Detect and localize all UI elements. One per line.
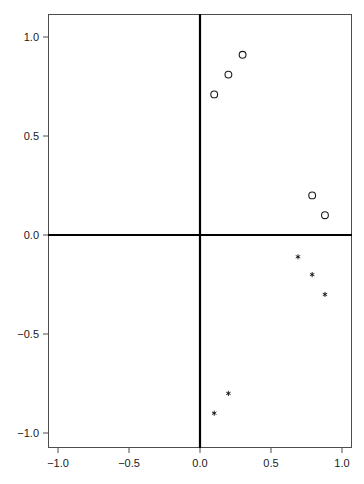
x-tick-label-4: 1.0 (334, 457, 349, 469)
y-tick-label-1: −0.5 (17, 328, 39, 340)
plot-canvas: −1.0−0.50.00.51.0 −1.0−0.50.00.51.0 (0, 0, 364, 484)
star-core (213, 412, 215, 414)
star-core (297, 256, 299, 258)
x-tick-label-2: 0.0 (192, 457, 207, 469)
scatter-plot-figure: −1.0−0.50.00.51.0 −1.0−0.50.00.51.0 (0, 0, 364, 484)
x-tick-label-0: −1.0 (47, 457, 69, 469)
star-core (227, 392, 229, 394)
y-tick-label-4: 1.0 (24, 31, 39, 43)
figure-background (0, 0, 364, 484)
x-tick-label-3: 0.5 (263, 457, 278, 469)
x-tick-label-1: −0.5 (118, 457, 140, 469)
y-tick-label-2: 0.0 (24, 229, 39, 241)
star-core (324, 293, 326, 295)
y-tick-label-0: −1.0 (17, 427, 39, 439)
star-core (311, 274, 313, 276)
y-tick-label-3: 0.5 (24, 130, 39, 142)
